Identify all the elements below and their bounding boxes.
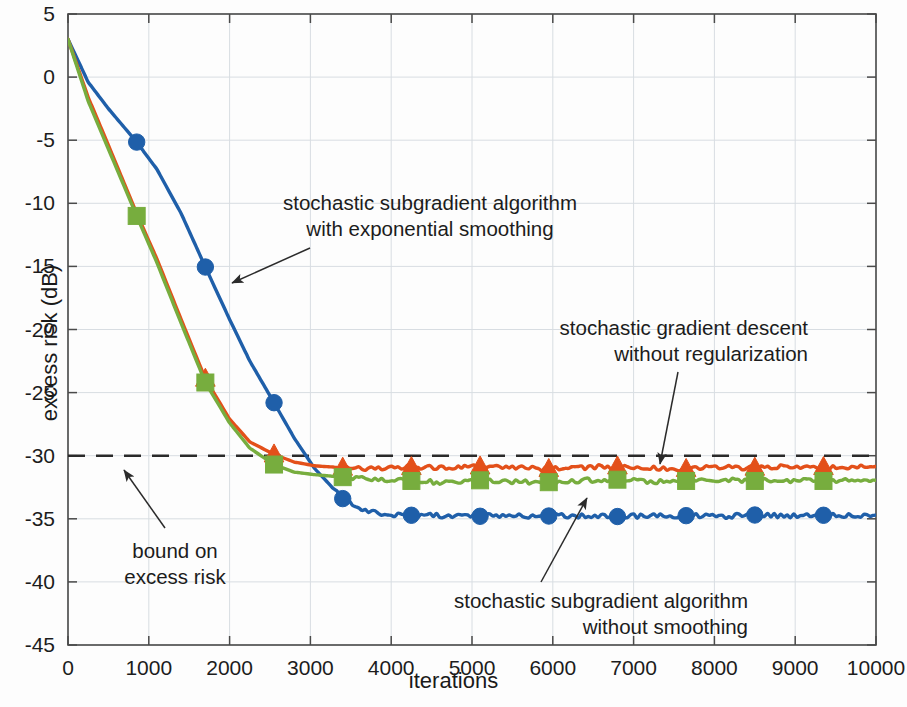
y-tick-label: -35 — [0, 507, 55, 531]
x-axis-label: iterations — [0, 668, 907, 694]
series-marker-square — [266, 456, 283, 473]
series-marker-square — [540, 474, 557, 491]
annot-bound-line-0: bound on — [0, 538, 475, 564]
series-marker-square — [403, 472, 420, 489]
series-marker-circle — [747, 507, 763, 523]
series-marker-triangle — [402, 457, 422, 475]
y-tick-label: 5 — [0, 2, 55, 26]
chart-figure: 50-5-10-15-20-25-30-35-40-45 01000200030… — [0, 0, 907, 707]
annot-sgd-noreg-line-0: stochastic gradient descent — [0, 315, 808, 341]
series-marker-circle — [403, 507, 419, 523]
series-marker-circle — [335, 490, 351, 506]
annot-sgd-nosmoothing-line-0: stochastic subgradient algorithm — [0, 588, 748, 614]
annot-sgd-smoothing-line-1: with exponential smoothing — [130, 216, 730, 242]
series-marker-circle — [541, 508, 557, 524]
y-tick-label: -5 — [0, 128, 55, 152]
annot-bound-line-1: excess risk — [0, 564, 475, 590]
annot-sgd-noreg-arrow — [660, 372, 678, 464]
series-marker-circle — [678, 507, 694, 523]
series-marker-circle — [128, 134, 144, 150]
series-marker-circle — [472, 508, 488, 524]
series-marker-square — [815, 472, 832, 489]
series-marker-circle — [197, 259, 213, 275]
y-tick-label: -10 — [0, 191, 55, 215]
series-marker-square — [746, 472, 763, 489]
annot-sgd-nosmoothing-line-1: without smoothing — [0, 614, 748, 640]
series-marker-square — [197, 374, 214, 391]
series-marker-triangle — [814, 457, 834, 475]
series-marker-circle — [609, 508, 625, 524]
annotation-arrows — [124, 248, 678, 582]
annot-bound: bound onexcess risk — [0, 538, 475, 590]
annot-sgd-nosmoothing: stochastic subgradient algorithmwithout … — [0, 588, 748, 640]
annot-sgd-smoothing-arrow — [232, 248, 310, 283]
series-marker-circle — [266, 394, 282, 410]
series-marker-square — [472, 472, 489, 489]
y-tick-label: 0 — [0, 65, 55, 89]
series-marker-square — [609, 471, 626, 488]
series-marker-square — [334, 469, 351, 486]
annot-sgd-smoothing: stochastic subgradient algorithmwith exp… — [130, 190, 730, 242]
series-marker-square — [678, 472, 695, 489]
annot-sgd-smoothing-line-0: stochastic subgradient algorithm — [130, 190, 730, 216]
annot-sgd-noreg: stochastic gradient descentwithout regul… — [0, 315, 808, 367]
annot-sgd-noreg-line-1: without regularization — [0, 341, 808, 367]
series-marker-circle — [815, 507, 831, 523]
